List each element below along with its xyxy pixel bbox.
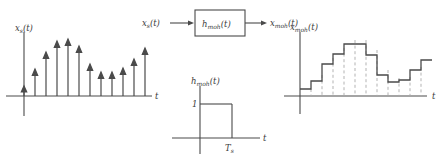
left-plot-x-axis-label: t — [155, 91, 159, 101]
impulse-train — [21, 39, 147, 96]
hold-block-diagram: xs(t) hmoh(t) xmoh(t) — [140, 4, 300, 44]
rectangular-pulse — [200, 104, 232, 138]
hold-filter-block-label: hmoh(t) — [202, 19, 231, 30]
block-output-arrow-head — [261, 20, 267, 25]
impulse-response-amplitude-tick: 1 — [192, 99, 197, 109]
hold-output-signal-plot: xmoh(t) t — [282, 22, 445, 137]
right-plot-x-axis-label: t — [432, 91, 436, 101]
impulse-response-plot: hmoh(t) 1 t Ts — [168, 76, 283, 161]
left-plot-y-axis-label: xs(t) — [15, 24, 33, 34]
right-plot-y-axis-label: xmoh(t) — [290, 22, 318, 33]
signal-processing-figure: xs(t) t xs(t) hmoh(t) xmoh(t) hmoh(t) 1 … — [0, 0, 445, 163]
block-input-label: xs(t) — [142, 18, 160, 29]
impulse-response-x-axis-label: t — [263, 133, 267, 143]
impulse-response-width-tick: Ts — [225, 143, 234, 154]
impulse-response-y-axis-label: hmoh(t) — [191, 76, 220, 87]
staircase-trace — [300, 44, 432, 89]
block-input-arrow-head — [188, 20, 194, 25]
